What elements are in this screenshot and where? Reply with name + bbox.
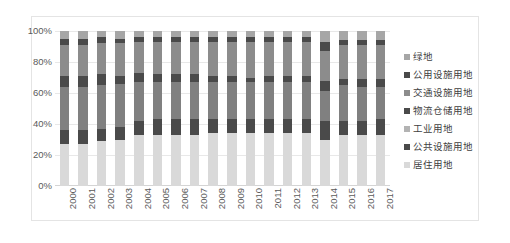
bar-segment[interactable] <box>153 42 163 75</box>
legend-item[interactable]: 物流仓储用地 <box>404 102 504 120</box>
bar-segment[interactable] <box>78 144 88 186</box>
bar-segment[interactable] <box>320 51 330 80</box>
legend-item[interactable]: 交通设施用地 <box>404 84 504 102</box>
bar-segment[interactable] <box>153 74 163 82</box>
bar-column[interactable] <box>246 31 256 186</box>
legend-item[interactable]: 居住用地 <box>404 156 504 174</box>
bar-segment[interactable] <box>208 119 218 133</box>
bar-column[interactable] <box>339 31 349 186</box>
stacked-bar[interactable] <box>97 31 107 186</box>
bar-segment[interactable] <box>78 87 88 130</box>
bar-segment[interactable] <box>115 140 125 187</box>
bar-segment[interactable] <box>190 82 200 119</box>
stacked-bar[interactable] <box>134 31 144 186</box>
bar-segment[interactable] <box>246 133 256 186</box>
bar-segment[interactable] <box>227 119 237 133</box>
bar-segment[interactable] <box>320 42 330 51</box>
bar-segment[interactable] <box>115 76 125 84</box>
bar-segment[interactable] <box>97 43 107 74</box>
bar-segment[interactable] <box>171 82 181 119</box>
bar-column[interactable] <box>357 31 367 186</box>
bar-segment[interactable] <box>376 31 386 40</box>
bar-segment[interactable] <box>357 79 367 87</box>
stacked-bar[interactable] <box>115 31 125 186</box>
stacked-bar[interactable] <box>171 31 181 186</box>
bar-segment[interactable] <box>115 127 125 139</box>
bar-column[interactable] <box>190 31 200 186</box>
bar-segment[interactable] <box>357 87 367 121</box>
bar-segment[interactable] <box>320 81 330 92</box>
bar-segment[interactable] <box>78 31 88 39</box>
bar-segment[interactable] <box>339 31 349 40</box>
stacked-bar[interactable] <box>208 31 218 186</box>
bar-segment[interactable] <box>264 119 274 133</box>
stacked-bar[interactable] <box>190 31 200 186</box>
bar-column[interactable] <box>302 31 312 186</box>
bar-column[interactable] <box>153 31 163 186</box>
bar-segment[interactable] <box>264 82 274 119</box>
bar-segment[interactable] <box>376 45 386 79</box>
stacked-bar[interactable] <box>376 31 386 186</box>
bar-segment[interactable] <box>208 133 218 186</box>
bar-column[interactable] <box>227 31 237 186</box>
bar-segment[interactable] <box>339 45 349 79</box>
bar-segment[interactable] <box>153 82 163 119</box>
bar-segment[interactable] <box>97 141 107 186</box>
bar-segment[interactable] <box>339 121 349 135</box>
stacked-bar[interactable] <box>60 31 70 186</box>
bar-column[interactable] <box>320 31 330 186</box>
legend-item[interactable]: 公用设施用地 <box>404 66 504 84</box>
bar-column[interactable] <box>134 31 144 186</box>
bar-segment[interactable] <box>208 42 218 76</box>
bar-column[interactable] <box>78 31 88 186</box>
stacked-bar[interactable] <box>264 31 274 186</box>
bar-segment[interactable] <box>376 135 386 186</box>
bar-segment[interactable] <box>60 76 70 87</box>
bar-column[interactable] <box>171 31 181 186</box>
bar-segment[interactable] <box>97 85 107 128</box>
bar-segment[interactable] <box>246 119 256 133</box>
legend-item[interactable]: 公共设施用地 <box>404 138 504 156</box>
bar-segment[interactable] <box>339 85 349 121</box>
stacked-bar[interactable] <box>227 31 237 186</box>
bar-segment[interactable] <box>227 133 237 186</box>
bar-segment[interactable] <box>302 82 312 119</box>
bar-segment[interactable] <box>302 42 312 76</box>
bar-segment[interactable] <box>320 140 330 187</box>
bar-segment[interactable] <box>190 135 200 186</box>
stacked-bar[interactable] <box>302 31 312 186</box>
bar-segment[interactable] <box>134 73 144 82</box>
bar-segment[interactable] <box>60 144 70 186</box>
bar-segment[interactable] <box>376 119 386 135</box>
bar-column[interactable] <box>97 31 107 186</box>
legend-item[interactable]: 工业用地 <box>404 120 504 138</box>
bar-segment[interactable] <box>357 31 367 40</box>
bar-segment[interactable] <box>171 135 181 186</box>
bar-segment[interactable] <box>190 119 200 135</box>
bar-segment[interactable] <box>283 42 293 76</box>
bar-segment[interactable] <box>264 133 274 186</box>
bar-segment[interactable] <box>320 31 330 42</box>
bar-segment[interactable] <box>171 74 181 82</box>
bar-column[interactable] <box>208 31 218 186</box>
bar-segment[interactable] <box>320 91 330 120</box>
bar-segment[interactable] <box>283 133 293 186</box>
bar-segment[interactable] <box>339 135 349 186</box>
bar-segment[interactable] <box>134 135 144 186</box>
bar-column[interactable] <box>264 31 274 186</box>
bar-segment[interactable] <box>227 82 237 119</box>
bar-segment[interactable] <box>320 121 330 140</box>
bar-segment[interactable] <box>115 43 125 76</box>
bar-segment[interactable] <box>78 76 88 87</box>
stacked-bar[interactable] <box>339 31 349 186</box>
bar-segment[interactable] <box>376 87 386 120</box>
bar-column[interactable] <box>376 31 386 186</box>
bar-segment[interactable] <box>264 42 274 76</box>
bar-segment[interactable] <box>246 42 256 78</box>
legend-item[interactable]: 绿地 <box>404 48 504 66</box>
bar-segment[interactable] <box>357 45 367 79</box>
bar-segment[interactable] <box>171 42 181 75</box>
stacked-bar[interactable] <box>246 31 256 186</box>
stacked-bar[interactable] <box>153 31 163 186</box>
stacked-bar[interactable] <box>283 31 293 186</box>
